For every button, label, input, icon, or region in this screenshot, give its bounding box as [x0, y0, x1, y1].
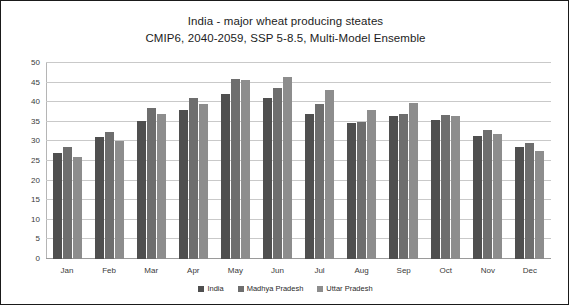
bar[interactable] — [367, 110, 376, 259]
bar[interactable] — [409, 103, 418, 259]
bar-group: Feb — [88, 63, 130, 259]
bar[interactable] — [483, 130, 492, 259]
x-axis-tick-label: Sep — [397, 266, 411, 275]
x-axis-tick-label: Nov — [481, 266, 495, 275]
x-axis-tick-label: Apr — [187, 266, 199, 275]
chart-subtitle: CMIP6, 2040-2059, SSP 5-8.5, Multi-Model… — [1, 30, 569, 47]
legend-item[interactable]: India — [198, 284, 223, 293]
bar[interactable] — [179, 110, 188, 259]
chart-legend: IndiaMadhya PradeshUttar Pradesh — [1, 284, 569, 293]
bar-group: Jul — [298, 63, 340, 259]
bar[interactable] — [515, 147, 524, 259]
bar-group: Jun — [256, 63, 298, 259]
legend-item[interactable]: Uttar Pradesh — [317, 284, 372, 293]
bar[interactable] — [473, 136, 482, 259]
plot-area: 05101520253035404550 JanFebMarAprMayJunJ… — [46, 63, 551, 259]
bar[interactable] — [263, 98, 272, 259]
bar[interactable] — [441, 115, 450, 259]
bar[interactable] — [53, 153, 62, 259]
x-axis-tick-label: Jan — [61, 266, 74, 275]
chart-container: India - major wheat producing steates CM… — [0, 0, 569, 305]
bar[interactable] — [389, 116, 398, 259]
bar[interactable] — [63, 147, 72, 259]
y-axis-tick-label: 45 — [31, 77, 40, 86]
bar[interactable] — [431, 120, 440, 259]
x-axis-tick-label: Dec — [523, 266, 537, 275]
bar[interactable] — [493, 134, 502, 259]
y-axis-tick-label: 35 — [31, 116, 40, 125]
x-axis-tick-label: Oct — [440, 266, 452, 275]
bar[interactable] — [347, 123, 356, 259]
y-axis-tick-label: 50 — [31, 58, 40, 67]
bar-group: Sep — [383, 63, 425, 259]
legend-swatch-icon — [317, 286, 323, 292]
bar[interactable] — [357, 122, 366, 259]
bar[interactable] — [221, 94, 230, 259]
chart-title-block: India - major wheat producing steates CM… — [1, 13, 569, 46]
legend-swatch-icon — [238, 286, 244, 292]
bar-group: Mar — [130, 63, 172, 259]
bar[interactable] — [95, 137, 104, 259]
bar[interactable] — [147, 108, 156, 259]
bar[interactable] — [305, 114, 314, 259]
x-axis-tick-label: May — [228, 266, 243, 275]
x-axis-tick-label: Jun — [271, 266, 284, 275]
bar[interactable] — [315, 104, 324, 259]
bar[interactable] — [199, 104, 208, 259]
bar-group: Dec — [509, 63, 551, 259]
legend-label: Uttar Pradesh — [326, 284, 372, 293]
bar-group: Nov — [467, 63, 509, 259]
legend-item[interactable]: Madhya Pradesh — [238, 284, 304, 293]
y-axis-tick-label: 30 — [31, 136, 40, 145]
bar[interactable] — [73, 157, 82, 259]
legend-label: Madhya Pradesh — [247, 284, 304, 293]
bar-group: Jan — [46, 63, 88, 259]
bar-groups: JanFebMarAprMayJunJulAugSepOctNovDec — [46, 63, 551, 259]
y-axis-tick-label: 15 — [31, 195, 40, 204]
x-axis-tick-label: Mar — [144, 266, 158, 275]
chart-title: India - major wheat producing steates — [1, 13, 569, 30]
bar[interactable] — [399, 114, 408, 259]
x-axis-tick-label: Feb — [102, 266, 116, 275]
bar-group: Aug — [341, 63, 383, 259]
bar[interactable] — [273, 88, 282, 259]
bar[interactable] — [283, 77, 292, 259]
y-axis-tick-label: 10 — [31, 214, 40, 223]
x-axis-tick-label: Aug — [354, 266, 368, 275]
bar[interactable] — [241, 80, 250, 259]
bar-group: May — [214, 63, 256, 259]
x-axis-tick-label: Jul — [314, 266, 324, 275]
bar[interactable] — [105, 132, 114, 259]
bar[interactable] — [451, 116, 460, 259]
y-axis-tick-label: 20 — [31, 175, 40, 184]
bar-group: Apr — [172, 63, 214, 259]
y-axis-tick-label: 40 — [31, 97, 40, 106]
bar[interactable] — [325, 90, 334, 259]
legend-swatch-icon — [198, 286, 204, 292]
bar[interactable] — [535, 151, 544, 259]
bar[interactable] — [231, 79, 240, 259]
bar[interactable] — [115, 141, 124, 259]
y-axis-tick-label: 25 — [31, 156, 40, 165]
bar[interactable] — [189, 98, 198, 259]
bar[interactable] — [137, 121, 146, 259]
y-axis-tick-label: 0 — [36, 254, 40, 263]
y-axis-tick-label: 5 — [36, 234, 40, 243]
bar[interactable] — [157, 114, 166, 259]
legend-label: India — [207, 284, 223, 293]
bar[interactable] — [525, 143, 534, 259]
bar-group: Oct — [425, 63, 467, 259]
